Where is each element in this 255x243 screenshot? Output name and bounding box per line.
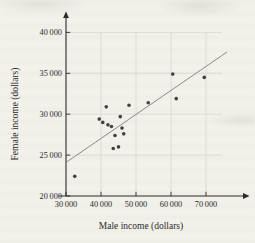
y-tick-label: 20 000: [40, 192, 62, 201]
scatter-plot: 30 00040 00050 00060 00070 00020 00025 0…: [0, 0, 255, 243]
gridlines: [66, 32, 222, 196]
data-point: [117, 145, 121, 149]
data-point: [97, 117, 101, 121]
data-point: [174, 97, 178, 101]
y-axis-title: Female income (dollars): [10, 68, 21, 161]
data-point: [106, 123, 110, 127]
y-axis-arrow: [63, 12, 69, 19]
data-point: [73, 175, 77, 179]
data-point: [104, 105, 108, 109]
data-point: [146, 101, 150, 105]
y-tick-label: 40 000: [40, 28, 62, 37]
data-point: [120, 126, 124, 130]
x-tick-label: 60 000: [160, 200, 182, 209]
x-tick-label: 30 000: [55, 200, 77, 209]
data-point: [122, 132, 126, 136]
axes: [59, 12, 250, 199]
x-axis-title: Male income (dollars): [99, 221, 183, 232]
data-point: [118, 115, 122, 119]
y-tick-label: 30 000: [40, 110, 62, 119]
data-point: [202, 76, 206, 80]
y-tick-label: 35 000: [40, 69, 62, 78]
x-axis-arrow: [243, 193, 250, 199]
data-point: [171, 72, 175, 76]
x-tick-label: 40 000: [90, 200, 112, 209]
data-point: [110, 125, 114, 129]
scanned-page: 30 00040 00050 00060 00070 00020 00025 0…: [0, 0, 255, 243]
trend-line: [66, 52, 227, 162]
x-tick-label: 70 000: [195, 200, 217, 209]
data-points: [73, 72, 206, 178]
data-point: [101, 121, 105, 125]
data-point: [127, 103, 131, 107]
y-tick-label: 25 000: [40, 151, 62, 160]
data-point: [111, 147, 115, 151]
data-point: [113, 134, 117, 138]
x-tick-label: 50 000: [125, 200, 147, 209]
